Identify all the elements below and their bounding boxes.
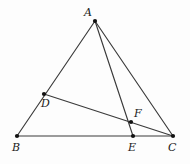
vertex-point-c (171, 134, 175, 138)
geometry-figure: ABCDEF (0, 0, 190, 164)
segment-dc (44, 94, 173, 136)
vertex-point-f (129, 120, 133, 124)
segments-group (17, 21, 173, 136)
vertex-point-d (42, 92, 46, 96)
point-label-e: E (128, 142, 136, 153)
vertex-point-b (15, 134, 19, 138)
point-label-c: C (168, 142, 176, 153)
segment-ab (17, 21, 95, 136)
vertices-group (15, 19, 175, 138)
geometry-canvas (0, 0, 190, 164)
vertex-point-a (93, 19, 97, 23)
point-label-b: B (12, 142, 20, 153)
point-label-a: A (84, 7, 92, 18)
point-label-f: F (134, 108, 142, 119)
point-label-d: D (41, 98, 50, 109)
segment-ae (95, 21, 133, 136)
vertex-point-e (131, 134, 135, 138)
